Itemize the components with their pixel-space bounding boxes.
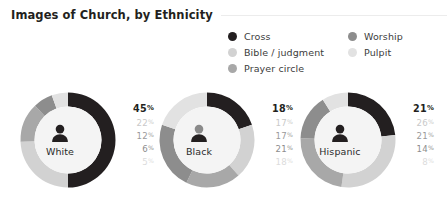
donut-svg <box>296 88 400 192</box>
donut-hub <box>174 107 241 174</box>
value-number: 26 <box>417 117 428 127</box>
value-number: 18 <box>276 157 287 167</box>
donut-group-black: Black 18% 17% 17% 21% 18% <box>147 88 295 215</box>
percent-sign: % <box>427 104 434 112</box>
legend-swatch-circle-icon <box>348 32 357 41</box>
value-row: 21% <box>400 129 434 142</box>
legend-label: Cross <box>244 31 271 42</box>
legend-item-cross[interactable]: Cross <box>228 28 348 44</box>
header-divider <box>221 15 447 16</box>
value-number: 14 <box>417 144 428 154</box>
chart-legend: Cross Worship Bible / judgment Pulpit Pr… <box>228 28 447 76</box>
donut-group-white: White 45% 22% 12% 6% 5% <box>8 88 156 215</box>
legend-item-prayer-circle[interactable]: Prayer circle <box>228 60 348 76</box>
legend-label: Pulpit <box>364 47 391 58</box>
donut-svg <box>155 88 259 192</box>
percent-sign: % <box>428 157 434 164</box>
value-number: 17 <box>276 117 287 127</box>
value-row: 8% <box>400 155 434 168</box>
value-number: 21 <box>276 144 287 154</box>
value-number: 21 <box>413 103 427 114</box>
page-title: Images of Church, by Ethnicity <box>11 8 213 22</box>
donut-ring-hispanic <box>296 88 400 192</box>
value-row: 26% <box>400 116 434 129</box>
donut-ring-white <box>16 88 120 192</box>
chart-header: Images of Church, by Ethnicity <box>0 0 447 30</box>
donut-group-hispanic: Hispanic 21% 26% 21% 14% 8% <box>288 88 436 215</box>
value-number: 17 <box>276 131 287 141</box>
donut-values-hispanic: 21% 26% 21% 14% 8% <box>400 102 434 169</box>
legend-label: Worship <box>364 31 403 42</box>
value-number: 45 <box>133 103 147 114</box>
value-number: 18 <box>272 103 286 114</box>
percent-sign: % <box>428 118 434 125</box>
legend-swatch-circle-icon <box>228 64 237 73</box>
legend-item-pulpit[interactable]: Pulpit <box>348 44 447 60</box>
donut-chart-row: White 45% 22% 12% 6% 5% <box>0 88 447 215</box>
donut-svg <box>16 88 120 192</box>
legend-swatch-circle-icon <box>348 48 357 57</box>
value-number: 21 <box>417 131 428 141</box>
legend-item-worship[interactable]: Worship <box>348 28 447 44</box>
legend-item-bible-judgment[interactable]: Bible / judgment <box>228 44 348 60</box>
donut-hub <box>315 107 382 174</box>
percent-sign: % <box>428 144 434 151</box>
donut-ring-black <box>155 88 259 192</box>
value-row: 14% <box>400 142 434 155</box>
legend-swatch-circle-icon <box>228 32 237 41</box>
legend-label: Bible / judgment <box>244 47 324 58</box>
value-row: 21% <box>400 102 434 116</box>
legend-swatch-circle-icon <box>228 48 237 57</box>
value-number: 8 <box>422 157 428 167</box>
donut-hub <box>35 107 102 174</box>
legend-label: Prayer circle <box>244 63 304 74</box>
percent-sign: % <box>428 131 434 138</box>
